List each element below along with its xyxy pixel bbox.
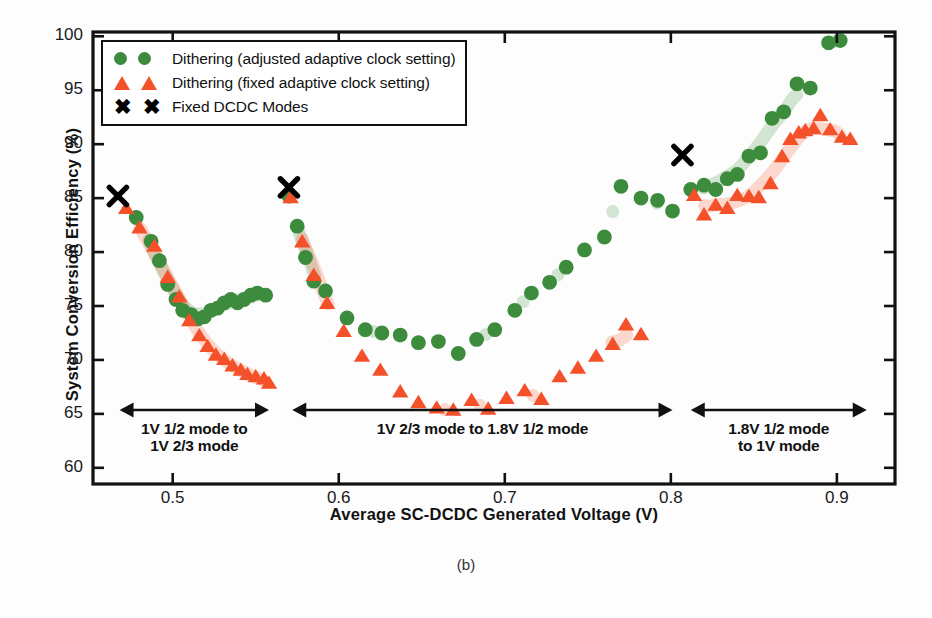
data-point-triangle <box>354 348 370 361</box>
legend-item-fixed-dcdc: ✖ ✖ Fixed DCDC Modes <box>111 95 455 118</box>
data-point-circle <box>507 303 522 318</box>
region-label-line: 1V 2/3 mode <box>90 437 299 454</box>
data-point-triangle <box>372 362 388 375</box>
legend-marker-x-pair: ✖ ✖ <box>111 100 172 114</box>
data-point-circle <box>597 230 612 245</box>
data-point-circle <box>559 260 574 275</box>
y-tick-label: 75 <box>37 295 83 315</box>
data-point-circle <box>451 346 466 361</box>
region-label-line: to 1V mode <box>661 437 897 454</box>
data-point-triangle <box>588 348 604 361</box>
x-tick-label: 0.8 <box>641 488 701 508</box>
y-tick-label: 60 <box>37 457 83 477</box>
data-point-triangle <box>498 391 514 404</box>
trend-band <box>705 128 841 206</box>
data-point-triangle <box>618 317 634 330</box>
data-point-circle <box>665 204 680 219</box>
data-point-circle <box>340 311 355 326</box>
data-point-circle <box>290 219 305 234</box>
y-tick-label: 90 <box>37 133 83 153</box>
data-point-triangle <box>463 393 479 406</box>
data-point-circle <box>258 288 273 303</box>
circle-icon <box>138 52 151 65</box>
figure-panel-b: System Conversion Efficiency (%) Average… <box>0 0 932 618</box>
y-tick-label: 65 <box>37 403 83 423</box>
chart-legend: Dithering (adjusted adaptive clock setti… <box>101 40 467 126</box>
x-tick-label: 0.6 <box>309 488 369 508</box>
data-point-x-mark <box>674 146 691 163</box>
triangle-icon <box>141 76 157 90</box>
triangle-icon <box>114 76 130 90</box>
data-point-circle <box>375 326 390 341</box>
region-arrow <box>120 403 269 418</box>
x-tick-label: 0.7 <box>475 488 535 508</box>
region-label-region-3: 1.8V 1/2 modeto 1V mode <box>661 420 897 455</box>
data-point-circle <box>614 179 629 194</box>
data-point-circle <box>650 193 665 208</box>
data-point-circle <box>487 322 502 337</box>
data-point-circle <box>358 322 373 337</box>
data-point-circle <box>790 76 805 91</box>
x-mark-icon: ✖ <box>143 100 161 114</box>
legend-label-fixed-dcdc: Fixed DCDC Modes <box>172 98 308 116</box>
data-point-circle <box>298 250 313 265</box>
data-point-circle <box>833 33 848 48</box>
region-label-line: 1V 2/3 mode to 1.8V 1/2 mode <box>262 420 702 437</box>
y-tick-label: 85 <box>37 187 83 207</box>
y-tick-label: 100 <box>37 25 83 45</box>
data-point-circle <box>469 332 484 347</box>
data-point-triangle <box>392 384 408 397</box>
y-tick-label: 70 <box>37 349 83 369</box>
data-point-triangle <box>812 108 828 121</box>
y-tick-label: 95 <box>37 79 83 99</box>
y-tick-label: 80 <box>37 241 83 261</box>
x-tick-label: 0.9 <box>807 488 867 508</box>
data-point-circle <box>803 81 818 96</box>
figure-caption: (b) <box>0 556 932 573</box>
region-arrow <box>691 403 867 418</box>
data-point-circle <box>577 243 592 258</box>
x-tick-label: 0.5 <box>143 488 203 508</box>
data-point-triangle <box>570 360 586 373</box>
data-point-circle <box>152 253 167 268</box>
legend-item-fixed-clock: Dithering (fixed adaptive clock setting) <box>111 71 455 94</box>
data-point-x-mark <box>109 187 126 204</box>
data-point-circle <box>776 104 791 119</box>
x-mark-icon: ✖ <box>114 100 132 114</box>
data-point-circle <box>524 286 539 301</box>
data-point-triangle <box>410 395 426 408</box>
legend-label-adjusted: Dithering (adjusted adaptive clock setti… <box>172 50 455 68</box>
legend-marker-triangle-pair <box>111 76 172 90</box>
data-point-circle <box>753 145 768 160</box>
data-point-triangle <box>551 369 567 382</box>
data-point-triangle <box>336 324 352 337</box>
legend-marker-circle-pair <box>111 52 172 65</box>
data-point-circle <box>431 334 446 349</box>
circle-icon <box>114 52 127 65</box>
data-point-circle <box>542 275 557 290</box>
data-point-circle <box>708 182 723 197</box>
legend-item-adjusted: Dithering (adjusted adaptive clock setti… <box>111 47 455 70</box>
data-point-triangle <box>633 327 649 340</box>
region-label-line: 1.8V 1/2 mode <box>661 420 897 437</box>
data-point-circle <box>393 328 408 343</box>
data-point-circle <box>730 167 745 182</box>
legend-label-fixed-clock: Dithering (fixed adaptive clock setting) <box>172 74 430 92</box>
data-point-circle <box>318 284 333 299</box>
region-label-region-2: 1V 2/3 mode to 1.8V 1/2 mode <box>262 420 702 437</box>
data-point-circle <box>411 335 426 350</box>
data-point-circle <box>634 191 649 206</box>
